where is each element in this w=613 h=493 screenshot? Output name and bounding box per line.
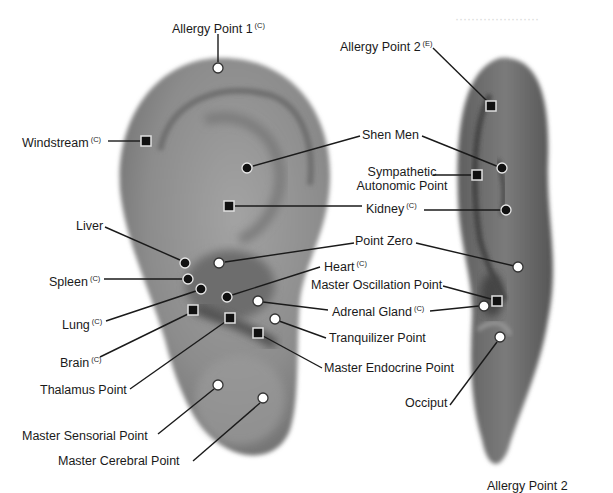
label-text: Allergy Point 1 — [172, 22, 253, 36]
black-circle-marker-icon — [242, 163, 252, 173]
white-circle-marker-icon — [213, 380, 223, 390]
label-tranquilizer-point: Tranquilizer Point — [329, 331, 426, 345]
label-text: Shen Men — [362, 128, 419, 142]
black-square-marker-icon — [472, 170, 482, 180]
white-circle-marker-icon — [253, 296, 263, 306]
label-master-sensorial-point: Master Sensorial Point — [22, 429, 148, 443]
label-windstream: Windstream(C) — [22, 133, 101, 150]
right-ear — [458, 58, 553, 464]
black-circle-marker-icon — [222, 292, 232, 302]
white-circle-marker-icon — [479, 301, 489, 311]
black-square-marker-icon — [188, 305, 198, 315]
white-circle-marker-icon — [513, 262, 523, 272]
evidence-superscript: (C) — [406, 201, 416, 210]
label-text: Windstream — [22, 136, 89, 150]
black-circle-marker-icon — [497, 163, 507, 173]
label-occiput: Occiput — [405, 396, 447, 410]
label-text: Adrenal Gland — [332, 305, 412, 319]
cutoff-label: Allergy Point 2 — [487, 479, 568, 493]
label-text: Spleen — [49, 275, 88, 289]
label-master-endocrine-point: Master Endocrine Point — [324, 361, 454, 375]
white-circle-marker-icon — [258, 393, 268, 403]
evidence-superscript: (C) — [357, 259, 367, 268]
label-text: Thalamus Point — [40, 383, 127, 397]
label-heart: Heart(C) — [324, 257, 367, 274]
evidence-superscript: (C) — [92, 317, 102, 326]
label-shen-men: Shen Men — [362, 128, 419, 142]
label-sympathetic-autonomic-point: SympatheticAutonomic Point — [338, 165, 466, 193]
label-spleen: Spleen(C) — [49, 272, 100, 289]
black-circle-marker-icon — [183, 274, 193, 284]
label-text: Master Oscillation Point — [311, 278, 442, 292]
label-brain: Brain(C) — [60, 353, 102, 370]
label-allergy-point-2: Allergy Point 2(E) — [340, 37, 433, 54]
evidence-superscript: (E) — [423, 39, 433, 48]
black-circle-marker-icon — [180, 258, 190, 268]
black-square-marker-icon — [141, 136, 151, 146]
evidence-superscript: (C) — [91, 135, 101, 144]
black-square-marker-icon — [486, 101, 496, 111]
label-allergy-point-1: Allergy Point 1(C) — [172, 19, 265, 36]
label-liver: Liver — [76, 219, 103, 233]
label-text: Brain — [60, 356, 89, 370]
left-ear — [120, 58, 330, 455]
label-text: Kidney — [366, 202, 404, 216]
faint-background-text: ····················· — [455, 12, 539, 26]
label-text-line2: Autonomic Point — [356, 179, 447, 193]
label-adrenal-gland: Adrenal Gland(C) — [332, 302, 424, 319]
leader-line — [430, 306, 479, 311]
black-square-marker-icon — [224, 201, 234, 211]
label-text: Allergy Point 2 — [340, 40, 421, 54]
label-text: Lung — [62, 318, 90, 332]
evidence-superscript: (C) — [90, 274, 100, 283]
white-circle-marker-icon — [270, 314, 280, 324]
black-square-marker-icon — [492, 296, 502, 306]
label-text: Master Cerebral Point — [58, 454, 180, 468]
label-text: Master Sensorial Point — [22, 429, 148, 443]
label-lung: Lung(C) — [62, 315, 102, 332]
evidence-superscript: (C) — [91, 355, 101, 364]
black-circle-marker-icon — [501, 205, 511, 215]
label-text: Sympathetic — [368, 165, 437, 179]
label-master-cerebral-point: Master Cerebral Point — [58, 454, 180, 468]
label-thalamus-point: Thalamus Point — [40, 383, 127, 397]
label-text: Heart — [324, 260, 355, 274]
evidence-superscript: (C) — [414, 304, 424, 313]
label-point-zero: Point Zero — [355, 234, 413, 248]
black-circle-marker-icon — [196, 284, 206, 294]
white-circle-marker-icon — [213, 63, 223, 73]
black-square-marker-icon — [253, 328, 263, 338]
label-master-oscillation-point: Master Oscillation Point — [311, 278, 442, 292]
label-text: Master Endocrine Point — [324, 361, 454, 375]
label-kidney: Kidney(C) — [366, 199, 417, 216]
white-circle-marker-icon — [495, 332, 505, 342]
label-text: Occiput — [405, 396, 447, 410]
label-text: Tranquilizer Point — [329, 331, 426, 345]
black-square-marker-icon — [225, 313, 235, 323]
label-text: Liver — [76, 219, 103, 233]
white-circle-marker-icon — [214, 258, 224, 268]
evidence-superscript: (C) — [255, 21, 265, 30]
label-text: Point Zero — [355, 234, 413, 248]
